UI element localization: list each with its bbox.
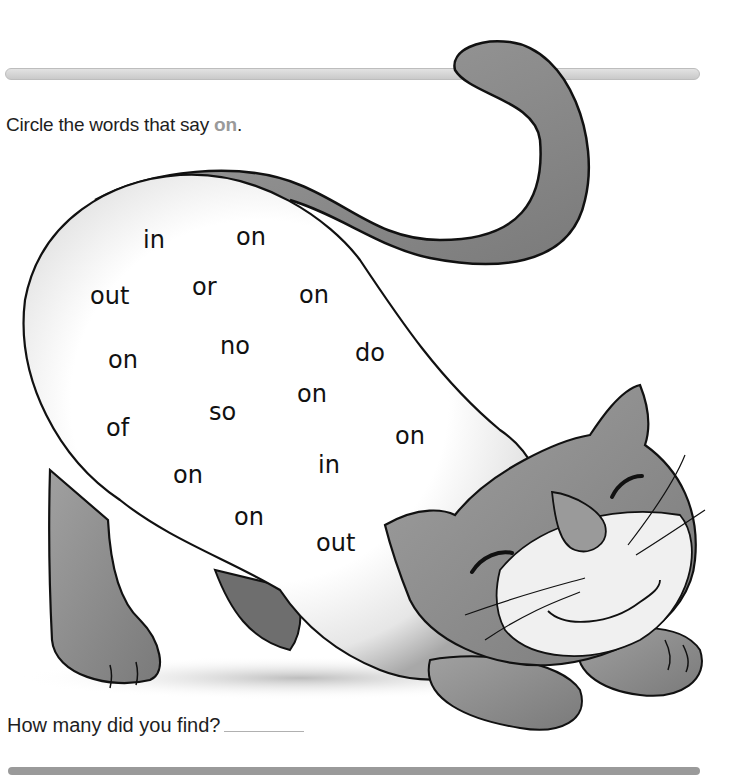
- word-on[interactable]: on: [173, 463, 203, 487]
- word-out[interactable]: out: [90, 284, 129, 308]
- word-no[interactable]: no: [220, 334, 250, 358]
- question-label: How many did you find?: [7, 714, 220, 736]
- word-of[interactable]: of: [106, 416, 129, 440]
- word-on[interactable]: on: [395, 424, 425, 448]
- word-on[interactable]: on: [236, 225, 266, 249]
- bottom-divider: [8, 767, 700, 775]
- word-on[interactable]: on: [299, 283, 329, 307]
- word-so[interactable]: so: [209, 400, 236, 424]
- word-on[interactable]: on: [297, 382, 327, 406]
- instruction-target-word: on: [214, 114, 237, 135]
- word-on[interactable]: on: [108, 348, 138, 372]
- word-or[interactable]: or: [192, 275, 217, 299]
- word-out[interactable]: out: [316, 531, 355, 555]
- instruction-prefix: Circle the words that say: [6, 114, 214, 135]
- word-in[interactable]: in: [318, 453, 340, 477]
- cat-front-paw-left: [429, 656, 582, 729]
- answer-blank[interactable]: [224, 730, 304, 732]
- count-question: How many did you find?: [7, 714, 304, 737]
- word-do[interactable]: do: [355, 341, 385, 365]
- word-on[interactable]: on: [234, 505, 264, 529]
- instruction-suffix: .: [237, 114, 242, 135]
- word-in[interactable]: in: [143, 228, 165, 252]
- instruction-text: Circle the words that say on.: [6, 114, 242, 136]
